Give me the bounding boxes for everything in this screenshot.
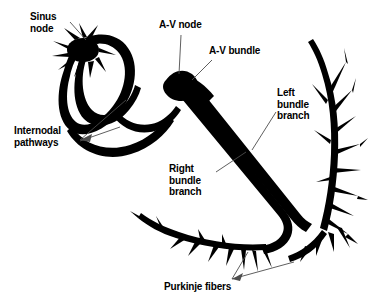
label-right-bundle-branch: Right bundle branch bbox=[169, 163, 201, 198]
label-left-bundle-branch: Left bundle branch bbox=[277, 87, 309, 122]
label-sinus-node: Sinus node bbox=[30, 11, 56, 34]
purkinje-fibers-right-wall bbox=[288, 39, 368, 262]
label-purkinje-fibers: Purkinje fibers bbox=[164, 281, 231, 293]
conduction-system-artwork bbox=[0, 0, 375, 304]
label-av-node: A-V node bbox=[159, 19, 202, 31]
leader-left-bundle bbox=[252, 112, 276, 150]
conduction-system-figure: Sinus node A-V node A-V bundle Internoda… bbox=[0, 0, 375, 304]
sinus-node-shape bbox=[52, 23, 116, 78]
label-internodal-pathways: Internodal pathways bbox=[14, 125, 61, 148]
leader-av-bundle bbox=[192, 60, 212, 80]
leader-av-node bbox=[179, 35, 181, 74]
label-av-bundle: A-V bundle bbox=[209, 45, 260, 57]
purkinje-fibers-apex bbox=[130, 211, 272, 272]
